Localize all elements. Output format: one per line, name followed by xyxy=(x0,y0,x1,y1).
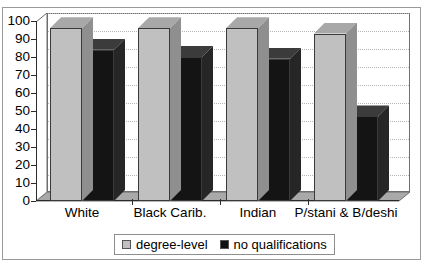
bar-side-face xyxy=(290,48,301,201)
y-tick-label: 20 xyxy=(0,158,30,172)
x-tick-label: P/stani & B/deshi xyxy=(286,205,406,220)
y-tick-label: 60 xyxy=(0,86,30,100)
x-axis: WhiteBlack Carib.IndianP/stani & B/deshi xyxy=(36,205,418,227)
bar-degree-level-2 xyxy=(226,13,258,201)
bar-chart: 1009080706050403020100 WhiteBlack Carib.… xyxy=(0,0,425,267)
y-tick-label: 40 xyxy=(0,122,30,136)
bar-front-face xyxy=(226,28,258,201)
bar-front-face xyxy=(314,34,346,201)
y-axis: 1009080706050403020100 xyxy=(0,0,30,267)
x-tick-mark xyxy=(132,199,133,205)
legend-label: degree-level xyxy=(136,238,208,251)
y-tick-label: 50 xyxy=(0,104,30,118)
plot-area xyxy=(36,13,410,207)
bar-side-face xyxy=(258,17,269,201)
bar-side-face xyxy=(170,17,181,201)
bar-front-face xyxy=(50,28,82,201)
y-tick-label: 30 xyxy=(0,140,30,154)
x-tick-mark xyxy=(220,199,221,205)
y-tick-label: 80 xyxy=(0,50,30,64)
bar-side-face xyxy=(202,46,213,201)
y-tick-label: 90 xyxy=(0,32,30,46)
bar-degree-level-1 xyxy=(138,13,170,201)
legend-item: no qualifications xyxy=(220,238,327,251)
y-tick-label: 10 xyxy=(0,176,30,190)
bar-side-face xyxy=(114,39,125,201)
black-swatch-icon xyxy=(220,240,229,249)
legend-label: no qualifications xyxy=(234,238,327,251)
bar-degree-level-0 xyxy=(50,13,82,201)
chart-legend: degree-levelno qualifications xyxy=(114,234,335,255)
legend-item: degree-level xyxy=(122,238,208,251)
gray-swatch-icon xyxy=(122,240,131,249)
bar-side-face xyxy=(378,105,389,201)
y-axis-line xyxy=(36,21,37,201)
bar-side-face xyxy=(346,23,357,201)
y-tick-label: 70 xyxy=(0,68,30,82)
bar-side-face xyxy=(82,17,93,201)
x-tick-mark xyxy=(308,199,309,205)
bar-front-face xyxy=(138,28,170,201)
y-tick-label: 100 xyxy=(0,14,30,28)
bar-degree-level-3 xyxy=(314,13,346,201)
